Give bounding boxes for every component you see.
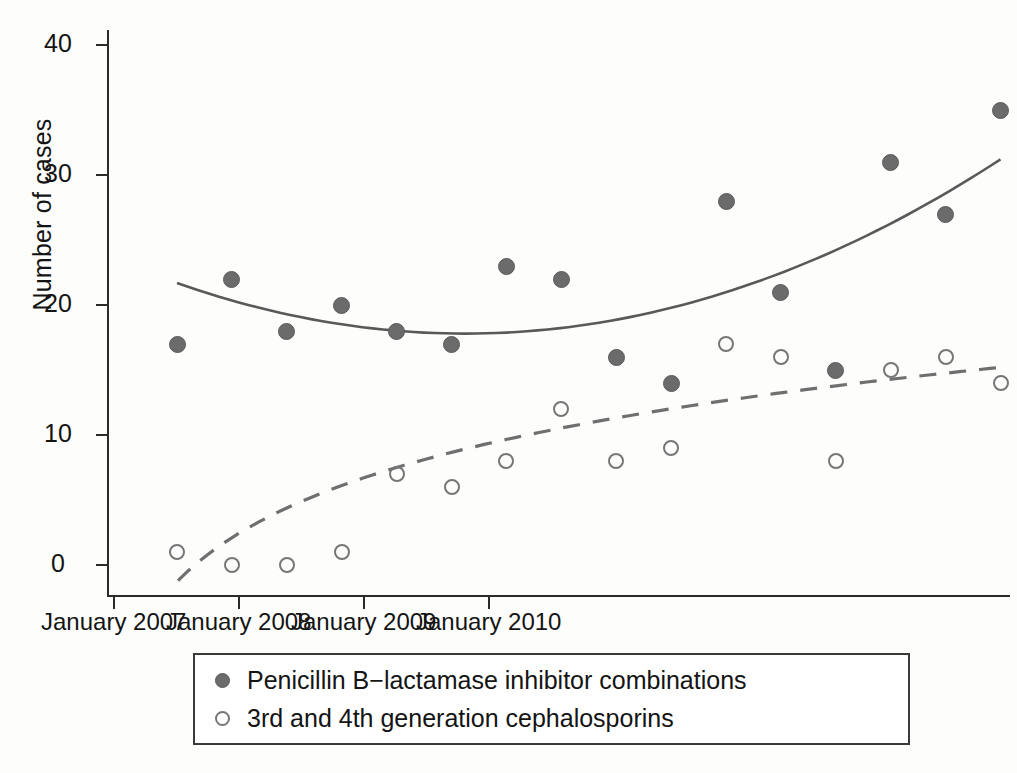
data-point <box>333 297 350 314</box>
data-point <box>279 557 295 573</box>
legend-label-penicillin: Penicillin B−lactamase inhibitor combina… <box>247 668 747 693</box>
data-point <box>169 336 186 353</box>
data-point <box>334 544 350 560</box>
data-point <box>224 557 240 573</box>
data-point <box>663 375 680 392</box>
data-point <box>608 349 625 366</box>
data-point <box>443 336 460 353</box>
data-point <box>663 440 679 456</box>
data-point <box>718 193 735 210</box>
legend-entry-cephalosporins[interactable]: 3rd and 4th generation cephalosporins <box>215 703 674 733</box>
data-point <box>882 154 899 171</box>
data-point <box>498 453 514 469</box>
data-point <box>938 349 954 365</box>
data-point <box>773 349 789 365</box>
data-point <box>827 362 844 379</box>
data-point <box>772 284 789 301</box>
data-point <box>828 453 844 469</box>
open-circle-icon <box>215 711 230 726</box>
data-point <box>553 401 569 417</box>
data-point <box>992 102 1009 119</box>
legend-entry-penicillin[interactable]: Penicillin B−lactamase inhibitor combina… <box>215 665 747 695</box>
chart-figure: Number of cases 403020100 January 2007Ja… <box>0 0 1017 773</box>
data-point <box>937 206 954 223</box>
data-point <box>993 375 1009 391</box>
data-point <box>278 323 295 340</box>
data-point <box>169 544 185 560</box>
filled-circle-icon <box>215 673 230 688</box>
data-point <box>389 466 405 482</box>
data-point <box>388 323 405 340</box>
data-point <box>498 258 515 275</box>
data-point <box>883 362 899 378</box>
legend-label-cephalosporins: 3rd and 4th generation cephalosporins <box>247 706 674 731</box>
data-point <box>718 336 734 352</box>
data-point <box>608 453 624 469</box>
data-point <box>553 271 570 288</box>
chart-legend: Penicillin B−lactamase inhibitor combina… <box>193 653 910 745</box>
data-point <box>223 271 240 288</box>
data-point <box>444 479 460 495</box>
